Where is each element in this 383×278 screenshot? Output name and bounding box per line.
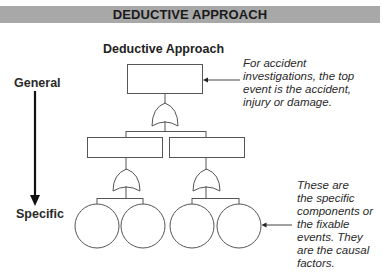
top-event-pointer-arrow [203, 78, 240, 83]
top-event-note: For accident investigations, the top eve… [243, 57, 354, 109]
intermediate-event-box-left [88, 138, 163, 158]
basic-event-circle [121, 204, 165, 248]
general-to-specific-arrow [30, 91, 40, 206]
basic-event-pointer-arrow [262, 223, 293, 228]
basic-events-note: These are the specific components or the… [297, 179, 373, 270]
top-event-box [128, 65, 203, 94]
basic-event-circle [75, 204, 119, 248]
intermediate-event-box-right [170, 138, 245, 158]
basic-event-circle [217, 204, 261, 248]
basic-event-circle [170, 204, 214, 248]
